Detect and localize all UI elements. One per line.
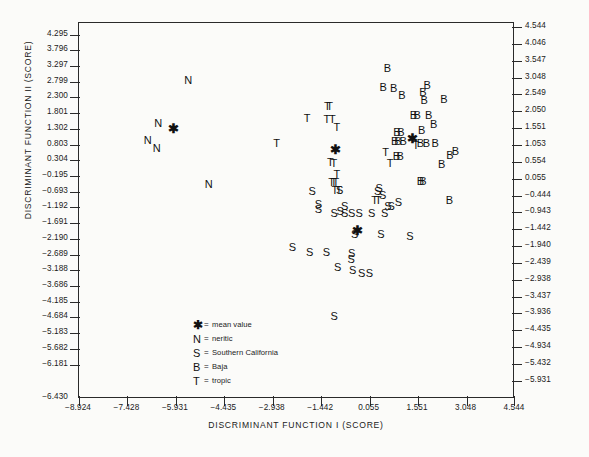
- y-axis-right-tick: [512, 27, 522, 28]
- data-point-southern-california: S: [336, 185, 343, 196]
- data-point-baja: B: [397, 151, 404, 162]
- y-axis-right-tick: [512, 61, 522, 62]
- legend-equals-sign: =: [204, 377, 212, 385]
- data-point-southern-california: S: [358, 268, 365, 279]
- data-point-southern-california: S: [406, 230, 413, 241]
- y-axis-left-tick-label: 0.304: [47, 155, 68, 163]
- y-axis-right-tick-label: −0.943: [525, 207, 551, 215]
- y-axis-right-tick-label: −0.444: [525, 190, 551, 198]
- y-axis-left-tick-label: 3.796: [47, 45, 68, 53]
- data-point-baja: B: [419, 175, 426, 186]
- x-axis-tick-label: 3.048: [455, 404, 476, 412]
- data-point-southern-california: S: [306, 247, 313, 258]
- data-point-southern-california: S: [331, 208, 338, 219]
- data-point-baja: B: [400, 136, 407, 147]
- y-axis-left-tick-label: −3.188: [42, 265, 68, 273]
- y-axis-left-tick-label: −3.686: [42, 281, 68, 289]
- y-axis-right-tick: [512, 111, 522, 112]
- y-axis-right-tick-label: 1.053: [525, 140, 546, 148]
- legend-symbol-N: N: [193, 334, 204, 345]
- data-point-southern-california: S: [366, 268, 373, 279]
- x-axis-title: DISCRIMINANT FUNCTION I (SCORE): [78, 420, 514, 430]
- data-point-southern-california: S: [348, 208, 355, 219]
- y-axis-right-tick-label: −3.437: [525, 291, 551, 299]
- y-axis-right-tick-label: 0.554: [525, 157, 546, 165]
- legend-symbol-B: B: [193, 362, 204, 373]
- data-point-tropic: T: [273, 138, 280, 149]
- x-axis-tick-label: 4.544: [504, 404, 525, 412]
- y-axis-right-tick: [512, 162, 522, 163]
- y-axis-left-tick-label: −0.195: [42, 171, 68, 179]
- data-point-southern-california: S: [355, 208, 362, 219]
- legend-symbol-S: S: [193, 348, 204, 359]
- y-axis-right-tick: [512, 94, 522, 95]
- y-axis-left-tick-label: −6.181: [42, 360, 68, 368]
- data-point-southern-california: S: [368, 208, 375, 219]
- legend-label-S: Southern California: [212, 349, 278, 357]
- data-point-southern-california: S: [377, 228, 384, 239]
- data-point-neritic: N: [153, 142, 161, 153]
- legend-label-T: tropic: [212, 377, 231, 385]
- y-axis-left-tick-label: −5.183: [42, 328, 68, 336]
- legend-item-T: T=tropic: [193, 374, 343, 388]
- x-axis-tick-label: −8.924: [65, 404, 91, 412]
- y-axis-right-tick-label: −3.936: [525, 308, 551, 316]
- y-axis-right-tick-label: 3.547: [525, 56, 546, 64]
- data-point-southern-california: S: [347, 253, 354, 264]
- x-axis-tick-label: −1.442: [307, 404, 333, 412]
- legend-symbol-mean: ✱: [193, 319, 204, 331]
- y-axis-left-tick-label: −0.693: [42, 187, 68, 195]
- legend-equals-sign: =: [204, 321, 212, 329]
- legend-label-B: Baja: [212, 363, 227, 371]
- data-point-baja: B: [432, 137, 439, 148]
- legend: ✱=mean valueN=neriticS=Southern Californ…: [193, 318, 343, 388]
- y-axis-right-tick-label: 4.046: [525, 39, 546, 47]
- y-axis-left-tick-label: 1.801: [47, 108, 68, 116]
- y-axis-left-tick-label: −1.691: [42, 218, 68, 226]
- data-point-neritic: N: [184, 74, 192, 85]
- y-axis-right-tick-label: −4.934: [525, 342, 551, 350]
- data-point-mean-value: ✱: [352, 224, 363, 237]
- y-axis-left-tick-label: 3.297: [47, 61, 68, 69]
- y-axis-right-tick-label: −4.435: [525, 325, 551, 333]
- y-axis-right-tick: [512, 145, 522, 146]
- x-axis-tick-label: −5.931: [162, 404, 188, 412]
- y-axis-right-tick-label: −1.442: [525, 224, 551, 232]
- y-axis-left-tick-label: −5.682: [42, 344, 68, 352]
- y-axis-right-tick-label: 2.050: [525, 106, 546, 114]
- y-axis-right-tick-label: 2.549: [525, 89, 546, 97]
- data-point-mean-value: ✱: [407, 131, 418, 144]
- data-point-baja: B: [390, 83, 397, 94]
- data-point-tropic: T: [382, 146, 389, 157]
- y-axis-right-tick: [512, 179, 522, 180]
- x-axis-tick-labels: −8.924−7.428−5.931−4.435−2.938−1.4420.05…: [78, 404, 514, 418]
- y-axis-left-tick-label: 4.295: [47, 29, 68, 37]
- y-axis-right-tick-label: −5.432: [525, 359, 551, 367]
- y-axis-left-tick-label: 0.803: [47, 139, 68, 147]
- y-axis-left-tick-label: −2.190: [42, 234, 68, 242]
- legend-item-N: N=neritic: [193, 332, 343, 346]
- data-point-baja: B: [438, 159, 445, 170]
- legend-equals-sign: =: [204, 363, 212, 371]
- y-axis-right-tick: [512, 313, 522, 314]
- data-point-southern-california: S: [388, 200, 395, 211]
- legend-item-mean: ✱=mean value: [193, 318, 343, 332]
- y-axis-right-tick: [512, 330, 522, 331]
- y-axis-right-tick-labels: 4.5444.0463.5473.0482.5492.0501.5511.053…: [525, 22, 577, 398]
- legend-label-N: neritic: [212, 335, 233, 343]
- y-axis-right-tick-label: 4.544: [525, 22, 546, 30]
- scatter-plot-figure: DISCRIMINANT FUNCTION II (SCORE) 4.2953.…: [0, 0, 589, 457]
- data-point-baja: B: [418, 125, 425, 136]
- legend-label-mean: mean value: [212, 321, 252, 329]
- legend-item-S: S=Southern California: [193, 346, 343, 360]
- data-point-tropic: T: [333, 121, 340, 132]
- data-point-neritic: N: [154, 118, 162, 129]
- data-point-baja: B: [421, 94, 428, 105]
- y-axis-right-tick: [512, 280, 522, 281]
- y-axis-right-tick: [512, 78, 522, 79]
- data-point-baja: B: [446, 194, 453, 205]
- data-point-baja: B: [452, 146, 459, 157]
- y-axis-left-tick-labels: 4.2953.7963.2972.7992.3001.8011.3020.803…: [20, 22, 68, 398]
- data-point-baja: B: [430, 118, 437, 129]
- data-point-southern-california: S: [395, 196, 402, 207]
